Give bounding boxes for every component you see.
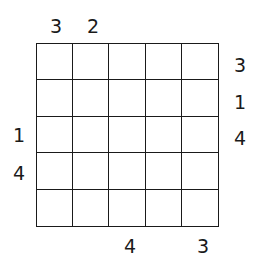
clue-top-1: 3	[46, 16, 66, 36]
grid-cell-r1-c3[interactable]	[109, 44, 145, 80]
grid-cell-r5-c2[interactable]	[73, 190, 109, 226]
grid-cell-r3-c5[interactable]	[182, 117, 218, 153]
grid-cell-r2-c5[interactable]	[182, 80, 218, 116]
grid-cell-r4-c1[interactable]	[37, 153, 73, 189]
grid-cell-r1-c2[interactable]	[73, 44, 109, 80]
clue-right-1: 3	[230, 55, 250, 75]
grid-cell-r5-c1[interactable]	[37, 190, 73, 226]
grid-cell-r4-c4[interactable]	[146, 153, 182, 189]
grid-cell-r2-c1[interactable]	[37, 80, 73, 116]
clue-left-3: 1	[9, 125, 29, 145]
grid-cell-r1-c5[interactable]	[182, 44, 218, 80]
clue-right-3: 4	[230, 128, 250, 148]
clue-left-4: 4	[9, 163, 29, 183]
clue-bottom-3: 4	[120, 236, 140, 256]
grid-cell-r3-c2[interactable]	[73, 117, 109, 153]
clue-top-2: 2	[83, 16, 103, 36]
grid-cell-r5-c3[interactable]	[109, 190, 145, 226]
puzzle-grid	[36, 43, 219, 227]
grid-cell-r1-c1[interactable]	[37, 44, 73, 80]
grid-cell-r3-c1[interactable]	[37, 117, 73, 153]
grid-cell-r5-c5[interactable]	[182, 190, 218, 226]
grid-cell-r4-c2[interactable]	[73, 153, 109, 189]
grid-cell-r2-c2[interactable]	[73, 80, 109, 116]
grid-cell-r3-c4[interactable]	[146, 117, 182, 153]
clue-right-2: 1	[230, 92, 250, 112]
grid-cell-r3-c3[interactable]	[109, 117, 145, 153]
grid-cell-r2-c3[interactable]	[109, 80, 145, 116]
grid-cell-r1-c4[interactable]	[146, 44, 182, 80]
clue-bottom-5: 3	[193, 236, 213, 256]
grid-cell-r5-c4[interactable]	[146, 190, 182, 226]
grid-cell-r4-c3[interactable]	[109, 153, 145, 189]
grid-cell-r2-c4[interactable]	[146, 80, 182, 116]
grid-cell-r4-c5[interactable]	[182, 153, 218, 189]
